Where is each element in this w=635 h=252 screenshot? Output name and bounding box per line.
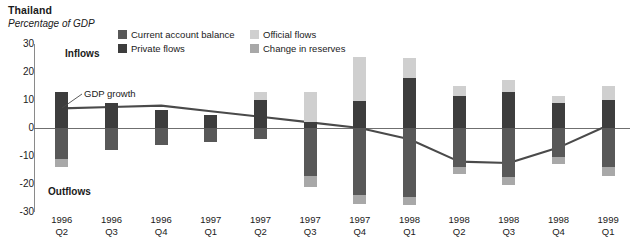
bar-segment-current-account-balance: [403, 128, 416, 197]
thailand-capital-flows-chart: Thailand Percentage of GDP Current accou…: [0, 0, 635, 252]
gdp-growth-line: [34, 44, 630, 212]
bar-1998-q2: [453, 44, 466, 212]
x-axis-label-quarter: Q4: [335, 226, 385, 238]
bar-segment-current-account-balance: [304, 128, 317, 176]
x-axis-label: 1997Q1: [186, 214, 236, 238]
y-axis: 3020100-10-20-30: [0, 0, 34, 252]
y-axis-tick: -30: [8, 206, 34, 217]
x-axis-label-quarter: Q2: [434, 226, 484, 238]
bar-1997-q3: [304, 44, 317, 212]
x-axis-label-quarter: Q3: [484, 226, 534, 238]
x-axis-label-quarter: Q4: [534, 226, 584, 238]
x-axis-label-quarter: Q1: [385, 226, 435, 238]
bar-segment-current-account-balance: [502, 128, 515, 177]
bar-segment-official-flows: [403, 58, 416, 78]
bar-segment-official-flows: [254, 92, 267, 100]
bar-segment-current-account-balance: [552, 128, 565, 157]
x-axis-label-year: 1998: [534, 214, 584, 226]
bar-segment-official-flows: [304, 92, 317, 123]
x-axis-label: 1996Q3: [87, 214, 137, 238]
bar-1999-q1: [602, 44, 615, 212]
x-axis-label: 1998Q1: [385, 214, 435, 238]
x-axis-label-quarter: Q2: [236, 226, 286, 238]
bar-segment-current-account-balance: [155, 128, 168, 145]
bar-segment-change-in-reserves: [403, 197, 416, 205]
y-axis-tick: -20: [8, 178, 34, 189]
bar-segment-private-flows: [502, 92, 515, 128]
x-axis-label: 1998Q2: [434, 214, 484, 238]
y-axis-tick: 10: [8, 94, 34, 105]
bar-1997-q4: [353, 44, 366, 212]
bar-segment-private-flows: [105, 103, 118, 128]
legend-item-official-flows: Official flows: [250, 29, 316, 40]
bar-segment-change-in-reserves: [353, 195, 366, 203]
bar-segment-private-flows: [204, 115, 217, 128]
x-axis-label: 1997Q2: [236, 214, 286, 238]
bar-segment-official-flows: [502, 80, 515, 91]
x-axis-labels: 1996Q21996Q31996Q41997Q11997Q21997Q31997…: [34, 214, 630, 250]
bar-segment-current-account-balance: [55, 128, 68, 159]
bar-segment-current-account-balance: [204, 128, 217, 142]
legend-label-official-flows: Official flows: [263, 29, 316, 40]
x-axis-label-quarter: Q2: [37, 226, 87, 238]
bar-1998-q4: [552, 44, 565, 212]
bar-1996-q4: [155, 44, 168, 212]
x-axis-label-year: 1998: [385, 214, 435, 226]
legend-swatch-official-flows: [250, 30, 259, 39]
bar-segment-private-flows: [254, 100, 267, 128]
plot-area: [34, 44, 630, 212]
bar-segment-change-in-reserves: [453, 167, 466, 174]
bar-segment-change-in-reserves: [304, 176, 317, 187]
x-axis-label-year: 1997: [236, 214, 286, 226]
bar-segment-change-in-reserves: [552, 157, 565, 164]
y-axis-tick: -10: [8, 150, 34, 161]
legend-item-current-account-balance: Current account balance: [118, 29, 235, 40]
bar-1996-q3: [105, 44, 118, 212]
x-axis-label-quarter: Q4: [136, 226, 186, 238]
bar-1997-q2: [254, 44, 267, 212]
x-axis-label: 1998Q3: [484, 214, 534, 238]
bar-segment-private-flows: [602, 100, 615, 128]
x-axis-label-year: 1997: [335, 214, 385, 226]
bar-segment-change-in-reserves: [602, 167, 615, 175]
bar-segment-current-account-balance: [353, 128, 366, 195]
bar-segment-private-flows: [552, 103, 565, 128]
x-axis-label-quarter: Q3: [285, 226, 335, 238]
bar-segment-private-flows: [353, 101, 366, 128]
bar-segment-change-in-reserves: [502, 177, 515, 185]
bar-segment-private-flows: [55, 92, 68, 128]
bar-1998-q3: [502, 44, 515, 212]
x-axis-label-year: 1998: [484, 214, 534, 226]
x-axis-label: 1996Q4: [136, 214, 186, 238]
x-axis-label: 1999Q1: [583, 214, 633, 238]
bar-1996-q2: [55, 44, 68, 212]
x-axis-label-quarter: Q1: [583, 226, 633, 238]
bar-segment-private-flows: [453, 96, 466, 128]
gdp-growth-annotation-label: GDP growth: [84, 88, 136, 99]
bar-segment-official-flows: [453, 86, 466, 96]
bar-segment-official-flows: [353, 57, 366, 102]
x-axis-label: 1997Q4: [335, 214, 385, 238]
bar-1997-q1: [204, 44, 217, 212]
x-axis-label-year: 1999: [583, 214, 633, 226]
bar-segment-private-flows: [403, 78, 416, 128]
x-axis-label: 1997Q3: [285, 214, 335, 238]
x-axis-label: 1998Q4: [534, 214, 584, 238]
gdp-growth-polyline: [62, 106, 608, 163]
bar-segment-current-account-balance: [254, 128, 267, 139]
bar-segment-change-in-reserves: [55, 159, 68, 167]
bar-segment-official-flows: [602, 86, 615, 100]
x-axis-label-year: 1996: [87, 214, 137, 226]
bar-segment-private-flows: [155, 110, 168, 128]
x-axis-label-year: 1997: [186, 214, 236, 226]
x-axis-label-year: 1998: [434, 214, 484, 226]
x-axis-label: 1996Q2: [37, 214, 87, 238]
y-axis-tick: 0: [8, 122, 34, 133]
x-axis-label-year: 1996: [136, 214, 186, 226]
bar-segment-official-flows: [552, 96, 565, 103]
legend-label-current-account-balance: Current account balance: [131, 29, 235, 40]
bar-segment-current-account-balance: [602, 128, 615, 167]
x-axis-label-year: 1996: [37, 214, 87, 226]
x-axis-label-quarter: Q1: [186, 226, 236, 238]
bar-segment-current-account-balance: [453, 128, 466, 167]
